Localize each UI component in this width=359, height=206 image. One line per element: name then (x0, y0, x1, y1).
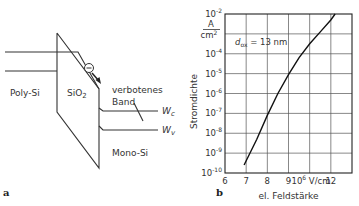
conduction-band-wc (99, 108, 158, 111)
y-tick-label: 10-5 (205, 67, 222, 79)
figure-canvas: Poly-Si SiO2 verbotenes Band Wc Wv Mono-… (0, 0, 359, 206)
label-wc: Wc (162, 106, 175, 118)
y-tick-label: 10-8 (205, 126, 222, 138)
x-tick-label: 7 (243, 176, 248, 186)
x-unit-label: ·106 V/cm (289, 174, 331, 186)
y-tick-label: 10-9 (205, 146, 222, 158)
oxide-barrier (57, 33, 99, 168)
y-unit-numerator: A (208, 19, 214, 29)
x-tick-label: 6 (222, 176, 227, 186)
current-density-chart: 10-210-410-510-610-710-810-910-10Acm2678… (189, 7, 352, 201)
label-mono-si: Mono-Si (112, 148, 148, 158)
valence-band-wv (99, 126, 158, 130)
label-verbotenes: verbotenes (112, 85, 163, 95)
thickness-annotation: dox = 13 nm (235, 37, 287, 48)
panel-label-b: b (216, 187, 223, 198)
y-unit-denominator: cm2 (201, 29, 218, 40)
y-tick-label: 10-7 (205, 106, 222, 118)
y-axis-title: Stromdichte (189, 74, 199, 129)
label-sio2: SiO2 (67, 88, 87, 100)
panel-label-a: a (3, 187, 10, 198)
label-wv: Wv (162, 125, 176, 137)
band-gap-pointer (134, 103, 143, 121)
x-axis-title: el. Feldstärke (258, 191, 319, 201)
y-tick-label: 10-2 (205, 7, 222, 19)
y-tick-label: 10-4 (205, 47, 222, 59)
y-tick-label: 10-10 (201, 166, 222, 178)
y-tick-label: 10-6 (205, 87, 222, 99)
label-band: Band (112, 97, 135, 107)
label-poly-si: Poly-Si (10, 88, 40, 98)
x-tick-label: 8 (265, 176, 270, 186)
